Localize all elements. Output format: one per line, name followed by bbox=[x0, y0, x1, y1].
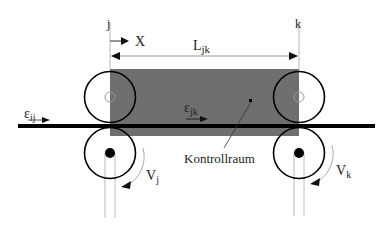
roller-j-lower bbox=[85, 128, 136, 219]
velocity-j-arrow-icon bbox=[121, 148, 144, 189]
x-axis-label: X bbox=[135, 34, 145, 49]
station-j-label: j bbox=[106, 17, 110, 31]
velocity-k-label: Vk bbox=[336, 163, 351, 180]
roller-k-lower bbox=[274, 128, 325, 217]
control-volume-marker bbox=[249, 99, 252, 102]
web-span-diagram: j k X Ljk εij εjk bbox=[0, 0, 392, 229]
control-volume-label: Kontrollraum bbox=[184, 151, 255, 166]
velocity-j-label: Vj bbox=[146, 168, 159, 185]
x-axis-arrow-icon bbox=[110, 37, 129, 45]
length-label: Ljk bbox=[193, 38, 211, 55]
station-k-label: k bbox=[295, 17, 301, 31]
